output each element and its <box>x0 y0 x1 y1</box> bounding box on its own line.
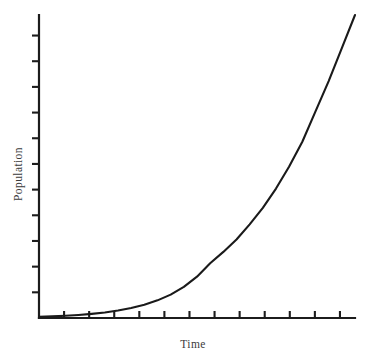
x-axis-title: Time <box>180 338 205 350</box>
axes-group <box>39 15 355 318</box>
y-axis-title: Population <box>12 147 25 201</box>
chart-canvas: Time Population <box>0 0 366 360</box>
population-growth-curve <box>39 15 355 317</box>
exponential-growth-chart: Time Population <box>0 0 366 360</box>
